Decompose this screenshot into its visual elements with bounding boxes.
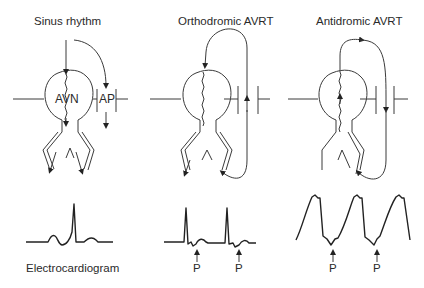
p-wave-arrows (197, 252, 377, 262)
ecg-sinus (26, 204, 113, 245)
label-ap: AP (99, 92, 115, 106)
p-label-4: P (373, 262, 381, 274)
ecg-orthodromic (164, 208, 256, 247)
orthodromic-diagram (150, 29, 270, 178)
label-avn: AVN (55, 92, 79, 106)
ecg-caption: Electrocardiogram (26, 262, 119, 274)
ecg-antidromic (296, 195, 410, 245)
antidromic-diagram (288, 39, 408, 179)
p-label-3: P (329, 262, 337, 274)
sinus-rhythm-diagram (13, 40, 128, 172)
p-label-2: P (235, 262, 243, 274)
diagram-canvas (0, 0, 424, 288)
p-label-1: P (193, 262, 201, 274)
